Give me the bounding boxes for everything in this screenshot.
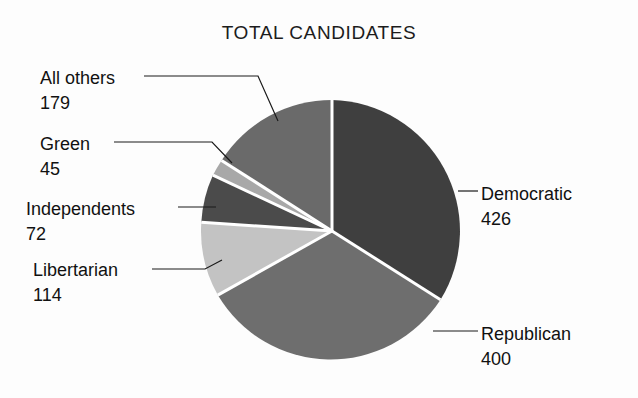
slice-label-all-others-name: All others xyxy=(40,66,115,91)
slice-label-green: Green 45 xyxy=(40,132,90,182)
slice-label-independents-name: Independents xyxy=(26,197,135,222)
slice-label-green-name: Green xyxy=(40,132,90,157)
slice-label-democratic: Democratic 426 xyxy=(481,182,572,232)
slice-label-green-value: 45 xyxy=(40,157,90,182)
slice-label-all-others-value: 179 xyxy=(40,91,115,116)
slice-label-all-others: All others 179 xyxy=(40,66,115,116)
slice-label-democratic-value: 426 xyxy=(481,207,572,232)
slice-label-libertarian-value: 114 xyxy=(33,283,118,308)
leader-line-all-others xyxy=(144,76,278,121)
slice-label-independents-value: 72 xyxy=(26,222,135,247)
leader-line-green xyxy=(114,142,232,163)
slice-label-libertarian-name: Libertarian xyxy=(33,258,118,283)
slice-label-independents: Independents 72 xyxy=(26,197,135,247)
slice-label-republican-name: Republican xyxy=(481,322,571,347)
slice-label-democratic-name: Democratic xyxy=(481,182,572,207)
pie-chart-page: TOTAL CANDIDATES xyxy=(0,0,638,398)
slice-label-libertarian: Libertarian 114 xyxy=(33,258,118,308)
slice-label-republican: Republican 400 xyxy=(481,322,571,372)
slice-label-republican-value: 400 xyxy=(481,347,571,372)
